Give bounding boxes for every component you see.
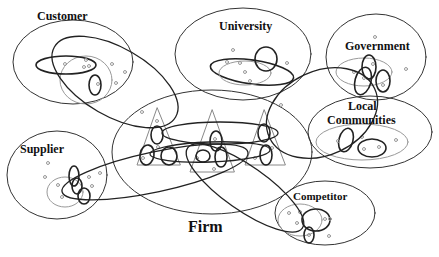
firm-network-diagram: Customer University Government Local Com… [0,0,439,257]
local-label: Local [348,99,377,113]
firm-label: Firm [188,218,223,235]
government-label: Government [345,39,410,53]
communities-label: Communities [327,113,396,127]
customer-group [13,20,133,104]
supplier-label: Supplier [20,142,65,156]
customer-label: Customer [37,9,88,23]
diagram-canvas: Customer University Government Local Com… [0,0,439,257]
government-group [326,14,426,100]
competitor-label: Competitor [293,190,347,202]
firm-unit-3 [245,110,285,165]
university-label: University [219,19,272,33]
